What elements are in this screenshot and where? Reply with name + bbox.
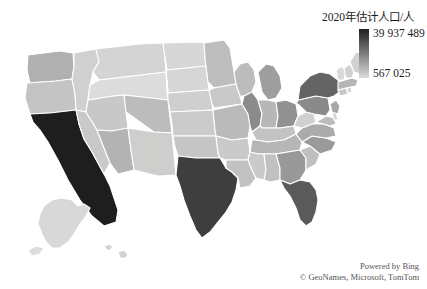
legend-max-value: 39 937 489 — [373, 27, 425, 39]
powered-by-text: Powered by Bing — [300, 261, 419, 272]
state-arkansas[interactable] — [216, 136, 250, 160]
state-colorado[interactable] — [124, 95, 172, 133]
copyright-text: © GeoNames, Microsoft, TomTom — [300, 272, 419, 283]
state-minnesota[interactable] — [204, 40, 236, 88]
state-michigan[interactable] — [258, 64, 282, 100]
legend-min-value: 567 025 — [373, 67, 410, 79]
state-missouri[interactable] — [213, 104, 250, 140]
state-georgia[interactable] — [276, 150, 306, 184]
map-attribution: Powered by Bing © GeoNames, Microsoft, T… — [300, 261, 419, 283]
state-oregon[interactable] — [25, 79, 76, 114]
state-oklahoma[interactable] — [173, 136, 220, 158]
state-north-dakota[interactable] — [163, 42, 206, 70]
map-legend: 2020年估计人口/人 39 937 489 567 025 — [318, 8, 426, 88]
state-kansas[interactable] — [170, 110, 216, 136]
map-screenshot: 2020年估计人口/人 39 937 489 567 025 Powered b… — [0, 0, 427, 289]
legend-gradient-bar — [359, 29, 369, 78]
state-florida[interactable] — [280, 180, 318, 226]
state-alaska-aleutians[interactable] — [28, 246, 44, 256]
state-new-mexico[interactable] — [128, 128, 176, 176]
state-hawaii-islands[interactable] — [104, 244, 113, 251]
state-hawaii[interactable] — [118, 250, 128, 258]
state-alaska[interactable] — [38, 198, 90, 248]
legend-title: 2020年估计人口/人 — [322, 8, 414, 24]
state-washington[interactable] — [27, 51, 74, 83]
state-new-jersey[interactable] — [330, 100, 340, 114]
legend-gradient-bar-wrapper — [359, 29, 369, 78]
